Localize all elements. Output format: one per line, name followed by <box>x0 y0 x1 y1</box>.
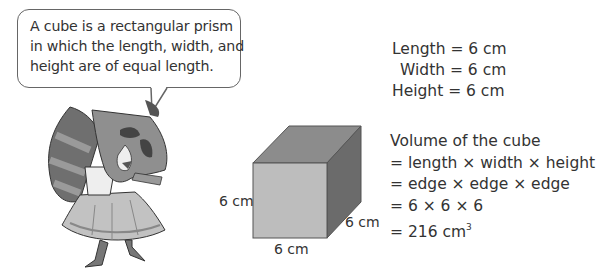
volume-calculation: Volume of the cube = length × width × he… <box>390 131 595 244</box>
volume-title: Volume of the cube <box>390 131 595 153</box>
cube-depth-label: 6 cm <box>345 214 380 230</box>
volume-step: = edge × edge × edge <box>390 174 595 196</box>
volume-result-value: = 216 cm <box>390 223 466 241</box>
bubble-line: A cube is a rectangular prism <box>30 16 240 36</box>
dimensions-list: Length = 6 cm Width = 6 cm Height = 6 cm <box>392 39 507 102</box>
volume-result: = 216 cm3 <box>390 217 595 244</box>
width-value: Width = 6 cm <box>392 60 507 81</box>
length-value: Length = 6 cm <box>392 39 507 60</box>
raccoon-mascot-icon <box>40 95 170 275</box>
volume-result-exponent: 3 <box>466 222 472 232</box>
speech-bubble-text: A cube is a rectangular prism in which t… <box>30 16 240 76</box>
cube-length-label: 6 cm <box>274 241 309 257</box>
bubble-line: in which the length, width, and <box>30 36 240 56</box>
height-value: Height = 6 cm <box>392 81 507 102</box>
bubble-line: height are of equal length. <box>30 56 240 76</box>
volume-step: = 6 × 6 × 6 <box>390 196 595 218</box>
volume-step: = length × width × height <box>390 153 595 175</box>
cube-height-label: 6 cm <box>219 193 254 209</box>
